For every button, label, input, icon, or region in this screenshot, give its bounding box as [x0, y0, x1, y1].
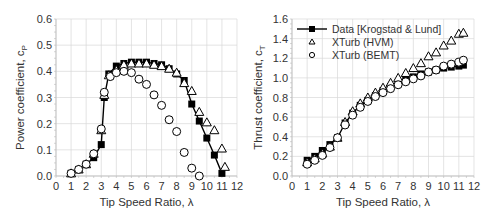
x-tick-label: 2	[83, 180, 89, 192]
y-tick-label: 0.6	[273, 111, 288, 123]
x-tick-label: 0	[289, 180, 295, 192]
x-tick-label: 11	[453, 180, 464, 192]
data-point-circle	[349, 111, 357, 119]
data-point-circle	[112, 69, 120, 77]
x-tick-label: 7	[159, 180, 165, 192]
data-point-circle	[150, 91, 158, 99]
y-tick-label: 0.5	[37, 39, 52, 51]
figure: 01234567891011120.00.10.20.30.40.50.6Tip…	[0, 0, 491, 221]
data-point-circle	[326, 144, 334, 152]
legend-square-icon	[309, 26, 315, 32]
x-tick-label: 1	[68, 180, 74, 192]
data-point-circle	[97, 125, 105, 133]
x-tick-label: 8	[174, 180, 180, 192]
x-tick-label: 5	[128, 180, 134, 192]
legend-item: XTurb (HVM)	[309, 36, 393, 48]
data-point-circle	[67, 169, 75, 177]
y-tick-label: 0.4	[37, 65, 52, 77]
data-point-circle	[402, 78, 410, 86]
data-point-circle	[100, 88, 108, 96]
data-point-circle	[447, 60, 455, 68]
y-tick-label: 0.2	[37, 118, 52, 130]
x-tick-label: 9	[425, 180, 431, 192]
data-point-triangle	[217, 144, 226, 152]
data-point-square	[196, 118, 203, 125]
data-point-square	[211, 152, 218, 159]
x-tick-label: 0	[53, 180, 59, 192]
x-axis-label: Tip Speed Ratio, λ	[336, 196, 430, 208]
y-tick-label: 0.0	[273, 170, 288, 182]
legend-label: XTurb (BEMT)	[332, 49, 399, 61]
x-tick-label: 10	[201, 180, 213, 192]
x-tick-label: 4	[113, 180, 119, 192]
y-tick-label: 0.6	[37, 13, 52, 25]
y-tick-label: 0.1	[37, 144, 52, 156]
legend: Data [Krogstad & Lund]XTurb (HVM)XTurb (…	[297, 23, 441, 61]
legend-item: XTurb (BEMT)	[309, 49, 399, 61]
data-point-triangle	[394, 73, 403, 81]
data-point-circle	[188, 164, 196, 172]
data-point-square	[98, 141, 105, 148]
data-point-circle	[409, 75, 417, 83]
data-point-triangle	[210, 126, 219, 134]
y-tick-label: 0.3	[37, 92, 52, 104]
data-point-circle	[371, 93, 379, 101]
data-point-circle	[364, 97, 372, 105]
legend-triangle-icon	[309, 39, 315, 44]
power-coefficient-chart: 01234567891011120.00.10.20.30.40.50.6Tip…	[14, 13, 243, 208]
data-point-triangle	[401, 68, 410, 76]
y-tick-label: 1.4	[273, 33, 288, 45]
data-point-circle	[135, 75, 143, 83]
data-point-triangle	[187, 86, 196, 94]
data-point-circle	[120, 67, 128, 75]
legend-circle-icon	[309, 52, 314, 57]
data-point-square	[203, 135, 210, 142]
y-tick-label: 0.2	[273, 150, 288, 162]
data-point-circle	[334, 134, 342, 142]
x-tick-label: 5	[365, 180, 371, 192]
data-point-square	[218, 170, 225, 177]
x-tick-label: 12	[468, 180, 480, 192]
y-axis-label-text: Power coefficient, c	[14, 50, 26, 150]
data-point-circle	[127, 69, 135, 77]
thrust-coefficient-chart: 01234567891011120.00.20.40.60.81.01.21.4…	[252, 13, 480, 208]
x-tick-label: 7	[395, 180, 401, 192]
data-point-circle	[311, 156, 319, 164]
data-point-circle	[173, 128, 181, 136]
data-point-circle	[143, 80, 151, 88]
data-point-circle	[356, 103, 364, 111]
y-axis-label-subscript: T	[258, 45, 267, 50]
x-tick-label: 8	[410, 180, 416, 192]
x-tick-label: 12	[231, 180, 243, 192]
data-point-circle	[432, 66, 440, 74]
legend-item: Data [Krogstad & Lund]	[297, 23, 441, 35]
data-point-circle	[459, 56, 467, 64]
y-tick-label: 0.0	[37, 170, 52, 182]
data-point-circle	[82, 160, 90, 168]
y-tick-label: 1.0	[273, 72, 288, 84]
y-tick-label: 1.2	[273, 52, 288, 64]
data-point-circle	[303, 160, 311, 168]
y-axis-label-subscript: P	[20, 45, 29, 50]
x-tick-label: 3	[334, 180, 340, 192]
data-point-circle	[318, 151, 326, 159]
data-point-circle	[195, 172, 203, 180]
x-tick-label: 10	[438, 180, 450, 192]
data-point-circle	[341, 121, 349, 129]
legend-label: XTurb (HVM)	[332, 36, 393, 48]
y-tick-label: 0.8	[273, 92, 288, 104]
x-tick-label: 3	[98, 180, 104, 192]
data-point-triangle	[409, 64, 418, 72]
x-axis-label: Tip Speed Ratio, λ	[99, 196, 193, 208]
y-tick-label: 1.6	[273, 13, 288, 25]
x-tick-label: 6	[380, 180, 386, 192]
x-tick-label: 4	[350, 180, 356, 192]
y-axis-label: Thrust coefficient, cT	[252, 45, 267, 150]
series-open-circle	[303, 56, 467, 168]
data-point-circle	[165, 116, 173, 124]
data-point-circle	[379, 89, 387, 97]
data-point-circle	[417, 72, 425, 80]
x-tick-label: 9	[189, 180, 195, 192]
data-point-circle	[394, 81, 402, 89]
data-point-circle	[180, 148, 188, 156]
